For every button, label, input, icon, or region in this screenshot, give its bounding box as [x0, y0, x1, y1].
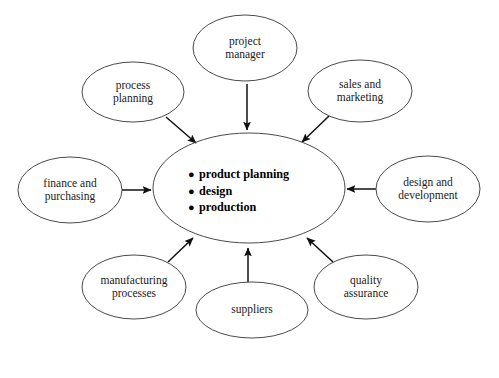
arrow-process-planning [166, 117, 196, 143]
core-activity-item: ●product planning [188, 166, 289, 183]
figure-caption [4, 366, 495, 377]
diagram-canvas: projectmanagerprocessplanningsales andma… [0, 0, 499, 378]
ellipse-finance-and-purchasing [18, 157, 122, 223]
ellipse-process-planning [82, 62, 184, 122]
core-activity-item: ●production [188, 199, 289, 216]
core-activity-item: ●design [188, 183, 289, 200]
arrow-manufacturing-processes [168, 238, 193, 262]
ellipse-project-manager [193, 15, 297, 81]
ellipse-manufacturing-processes [82, 255, 186, 319]
bullet-icon: ● [188, 166, 199, 183]
core-activity-label: product planning [199, 167, 289, 181]
arrow-quality-assurance [307, 238, 333, 262]
core-activity-label: production [199, 200, 256, 214]
bullet-icon: ● [188, 183, 199, 200]
arrow-sales-and-marketing [302, 116, 329, 142]
ellipse-suppliers [196, 282, 308, 338]
bullet-icon: ● [188, 199, 199, 216]
core-activities-list: ●product planning●design●production [188, 166, 289, 216]
core-activity-label: design [199, 184, 232, 198]
ellipse-quality-assurance [314, 255, 418, 319]
ellipse-design-and-development [376, 156, 480, 222]
ellipse-sales-and-marketing [308, 60, 412, 122]
